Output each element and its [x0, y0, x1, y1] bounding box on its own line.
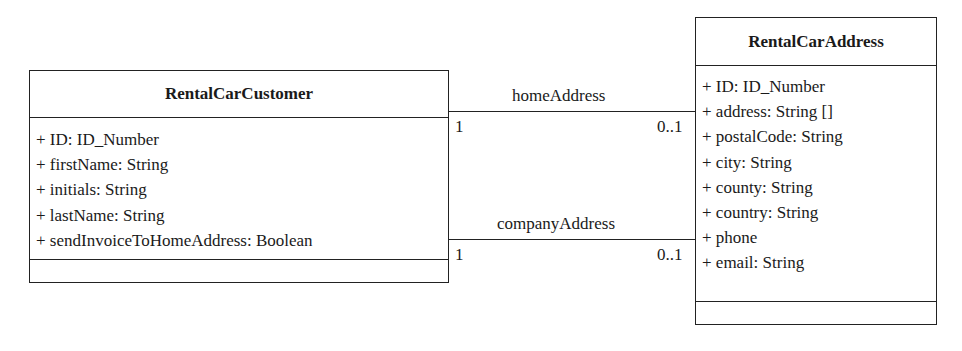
attribute: + county: String — [702, 175, 936, 200]
class-name: RentalCarAddress — [696, 18, 936, 66]
attribute: + ID: ID_Number — [36, 127, 448, 152]
class-rental-car-address: RentalCarAddress + ID: ID_Number + addre… — [695, 17, 937, 325]
attribute: + lastName: String — [36, 203, 448, 228]
multiplicity-home-from: 1 — [455, 117, 464, 137]
attribute: + country: String — [702, 200, 936, 225]
attribute: + postalCode: String — [702, 124, 936, 149]
attribute: + ID: ID_Number — [702, 74, 936, 99]
multiplicity-company-to: 0..1 — [657, 245, 683, 265]
attributes-compartment: + ID: ID_Number + address: String [] + p… — [696, 66, 936, 302]
association-name-company-address: companyAddress — [497, 214, 615, 234]
attribute: + firstName: String — [36, 152, 448, 177]
class-rental-car-customer: RentalCarCustomer + ID: ID_Number + firs… — [29, 70, 449, 283]
class-name: RentalCarCustomer — [30, 71, 448, 118]
association-company-address-line — [448, 239, 696, 240]
attribute: + address: String [] — [702, 99, 936, 124]
attribute: + initials: String — [36, 177, 448, 202]
attribute: + email: String — [702, 250, 936, 275]
attribute: + city: String — [702, 150, 936, 175]
multiplicity-company-from: 1 — [455, 245, 464, 265]
attribute: + sendInvoiceToHomeAddress: Boolean — [36, 228, 448, 253]
attributes-compartment: + ID: ID_Number + firstName: String + in… — [30, 118, 448, 260]
attribute: + phone — [702, 225, 936, 250]
association-name-home-address: homeAddress — [512, 86, 605, 106]
multiplicity-home-to: 0..1 — [657, 117, 683, 137]
association-home-address-line — [448, 111, 696, 112]
